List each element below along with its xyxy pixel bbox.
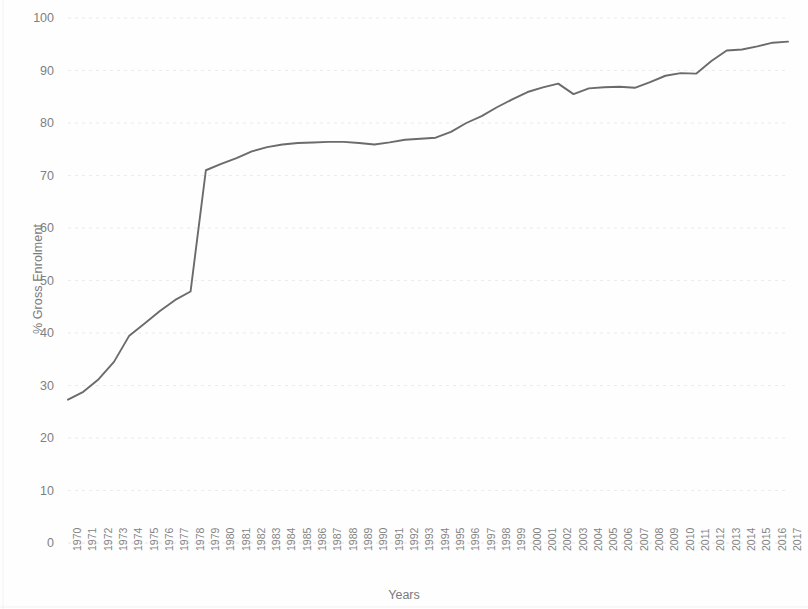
x-tick-label: 1974 (133, 528, 144, 551)
y-tick-label: 100 (14, 12, 54, 25)
x-tick-label: 2005 (608, 528, 619, 551)
x-tick-label: 1976 (164, 528, 175, 551)
x-tick-label: 2004 (593, 528, 604, 551)
x-tick-label: 2014 (746, 528, 757, 551)
x-tick-label: 1985 (302, 528, 313, 551)
x-tick-label: 1999 (516, 528, 527, 551)
x-tick-label: 1980 (225, 528, 236, 551)
x-tick-label: 1973 (118, 528, 129, 551)
x-tick-label: 1988 (348, 528, 359, 551)
x-tick-label: 2008 (654, 528, 665, 551)
x-tick-label: 1991 (394, 528, 405, 551)
x-tick-label: 1975 (149, 528, 160, 551)
x-tick-label: 1994 (440, 528, 451, 551)
x-tick-label: 2011 (700, 528, 711, 551)
x-tick-label: 1981 (241, 528, 252, 551)
x-tick-label: 1996 (470, 528, 481, 551)
x-tick-label: 2007 (639, 528, 650, 551)
x-tick-label: 2012 (715, 528, 726, 551)
x-tick-label: 1979 (210, 528, 221, 551)
x-tick-label: 2003 (578, 528, 589, 551)
x-tick-label: 2017 (792, 528, 803, 551)
x-tick-label: 1998 (501, 528, 512, 551)
plot-area (68, 18, 788, 543)
x-tick-label: 1982 (256, 528, 267, 551)
x-tick-label: 1997 (486, 528, 497, 551)
y-tick-label: 50 (14, 275, 54, 288)
x-tick-label: 1977 (179, 528, 190, 551)
x-tick-label: 1987 (332, 528, 343, 551)
x-tick-label: 1971 (87, 528, 98, 551)
x-tick-label: 2015 (761, 528, 772, 551)
y-tick-label: 70 (14, 170, 54, 183)
scan-artifact-bottom (0, 606, 808, 608)
x-tick-label: 2009 (669, 528, 680, 551)
scan-artifact-left (2, 0, 4, 609)
x-tick-label: 2006 (623, 528, 634, 551)
y-tick-label: 80 (14, 117, 54, 130)
x-tick-label: 2013 (731, 528, 742, 551)
x-tick-label: 2016 (777, 528, 788, 551)
x-tick-label: 2002 (562, 528, 573, 551)
x-tick-label: 1990 (378, 528, 389, 551)
x-tick-label: 2000 (532, 528, 543, 551)
y-tick-label: 0 (14, 537, 54, 550)
x-tick-label: 2001 (547, 528, 558, 551)
y-tick-label: 10 (14, 485, 54, 498)
y-tick-label: 60 (14, 222, 54, 235)
y-tick-label: 20 (14, 432, 54, 445)
x-tick-label: 1995 (455, 528, 466, 551)
series-path (68, 42, 788, 400)
y-tick-label: 30 (14, 380, 54, 393)
y-tick-label: 40 (14, 327, 54, 340)
x-tick-label: 2010 (685, 528, 696, 551)
x-tick-label: 1984 (286, 528, 297, 551)
x-axis-title: Years (0, 588, 808, 602)
y-tick-label: 90 (14, 65, 54, 78)
data-series-line (68, 18, 788, 543)
x-tick-label: 1978 (195, 528, 206, 551)
x-tick-label: 1992 (409, 528, 420, 551)
x-tick-label: 1993 (424, 528, 435, 551)
x-tick-label: 1970 (72, 528, 83, 551)
x-tick-label: 1972 (103, 528, 114, 551)
x-tick-label: 1983 (271, 528, 282, 551)
line-chart: % Gross Enrolment 0102030405060708090100… (0, 0, 808, 609)
x-tick-label: 1989 (363, 528, 374, 551)
x-tick-label: 1986 (317, 528, 328, 551)
